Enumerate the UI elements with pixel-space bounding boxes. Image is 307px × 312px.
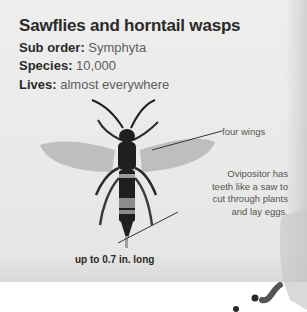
annotation-line: cut through plants bbox=[168, 193, 288, 206]
size-caption: up to 0.7 in. long bbox=[75, 254, 154, 265]
dot bbox=[233, 306, 239, 312]
annotation-line: Ovipositor has bbox=[168, 168, 288, 181]
wings-annotation: four wings bbox=[222, 126, 265, 139]
annotation-line: teeth like a saw to bbox=[168, 181, 288, 194]
plant-stem-icon bbox=[250, 210, 307, 312]
